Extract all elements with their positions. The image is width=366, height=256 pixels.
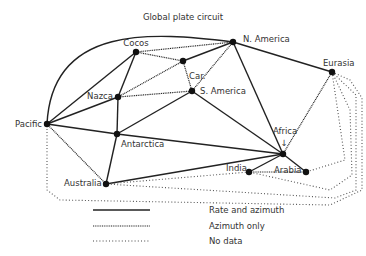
edge-nazca-samerica [118,91,192,97]
legend-label-rate: Rate and azimuth [209,205,284,215]
edge-cocos-car [136,52,183,61]
node-samerica [189,88,195,94]
node-cocos [133,49,139,55]
label-africa: Africa [273,126,297,136]
node-antarctica [114,131,120,137]
africa-arrow-icon: ↓ [280,138,287,148]
legend-label-nodata: No data [209,236,242,246]
label-australia: Australia [64,178,102,188]
edge-namerica-eurasia [233,42,332,72]
label-cocos: Cocos [123,38,149,48]
edge-pacific-antarctica [47,124,117,134]
node-australia [103,181,109,187]
edge-india-australia [106,172,249,184]
plate-circuit-diagram: Global plate circuit Cocos Car. N. Ameri… [0,0,366,256]
edge-antarctica-australia [106,134,117,184]
node-pacific [44,121,50,127]
label-eurasia: Eurasia [323,58,354,68]
node-arabia [303,169,309,175]
label-antarctica: Antarctica [121,139,164,149]
edge-pacific-australia [47,124,106,184]
edge-nazca-antarctica [117,97,118,134]
label-n-america: N. America [243,34,290,44]
edge-pacific-nazca [47,97,118,124]
diagram-title: Global plate circuit [143,12,224,22]
node-car [180,58,186,64]
legend-label-azimuth: Azimuth only [209,221,265,231]
edge-nazca-car [118,61,183,97]
edge-pacific-cocos [47,52,136,124]
edge-australia-africa [106,154,283,184]
label-car: Car. [189,71,206,81]
node-namerica [230,39,236,45]
edge-samerica-antarctica [117,91,192,134]
label-arabia: Arabia [274,165,301,175]
label-pacific: Pacific [15,119,42,129]
edge-africa-eurasia [283,72,332,154]
node-nazca [115,94,121,100]
label-india: India [226,163,247,173]
label-nazca: Nazca [87,91,113,101]
legend: Rate and azimuth Azimuth only No data [93,205,284,246]
label-s-america: S. America [200,86,246,96]
node-eurasia [329,69,335,75]
node-africa [280,151,286,157]
